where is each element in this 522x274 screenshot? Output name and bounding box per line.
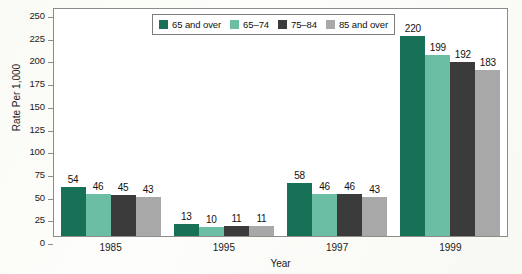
legend-swatch-icon [230,20,239,29]
bar-value-label: 220 [405,23,421,34]
bar-group: 54464543 [61,9,161,236]
bar: 13 [174,224,199,236]
legend-item[interactable]: 65 and over [159,19,221,30]
bar-value-label: 46 [93,181,104,192]
bar: 54 [61,187,86,236]
bar: 46 [86,194,111,236]
y-axis-tick-label: 100 [29,146,45,157]
legend-swatch-icon [278,20,287,29]
bar-value-label: 54 [68,174,79,185]
bar: 46 [312,194,337,236]
legend-swatch-icon [159,20,168,29]
bar-group: 13101111 [174,9,274,236]
legend-item-label: 75–84 [291,19,317,30]
x-axis-title: Year [53,258,508,269]
bar-value-label: 46 [319,181,330,192]
grouped-bar-chart: 0255075100125150175200225250 Rate Per 1,… [0,0,522,274]
y-axis-tick-label: 250 [29,10,45,21]
legend-item-label: 65–74 [243,19,269,30]
bar-value-label: 10 [206,214,217,225]
y-axis-tick-label: 175 [29,78,45,89]
bar: 10 [199,227,224,236]
bar: 220 [400,36,425,236]
bar: 58 [287,183,312,236]
bar: 183 [475,70,500,236]
legend-item-label: 85 and over [339,19,388,30]
bar: 192 [450,62,475,236]
bar: 11 [224,226,249,236]
y-axis-tick-label: 225 [29,33,45,44]
y-axis-tick-label: 200 [29,55,45,66]
bars-container: 544645431310111158464643220199192183 [54,9,507,236]
bar: 199 [425,55,450,236]
bar-value-label: 13 [181,211,192,222]
bar: 43 [362,197,387,236]
bar-value-label: 58 [294,170,305,181]
bar-value-label: 183 [480,57,496,68]
bar-value-label: 43 [143,184,154,195]
x-axis-tick-label: 1985 [100,242,122,253]
bar: 45 [111,195,136,236]
legend-item[interactable]: 75–84 [278,19,317,30]
bar-value-label: 46 [344,181,355,192]
y-axis-title: Rate Per 1,000 [11,28,22,168]
y-axis-tick-label: 50 [35,192,45,203]
bar-value-label: 43 [369,184,380,195]
bar-value-label: 11 [231,213,241,224]
legend: 65 and over65–7475–8485 and over [152,14,395,35]
x-axis-tick-label: 1995 [213,242,235,253]
bar-value-label: 45 [118,182,129,193]
legend-item[interactable]: 85 and over [326,19,388,30]
x-axis-tick-label: 1997 [326,242,348,253]
bar: 46 [337,194,362,236]
bar-group: 58464643 [287,9,387,236]
y-axis-tick-label: 25 [35,214,45,225]
x-axis: Year 1985199519971999 [53,238,508,274]
legend-item[interactable]: 65–74 [230,19,269,30]
legend-swatch-icon [326,20,335,29]
y-axis-tick-label: 75 [35,169,45,180]
bar: 43 [136,197,161,236]
bar-group: 220199192183 [400,9,500,236]
y-axis-tick-label: 150 [29,101,45,112]
y-axis-tick-label: 0 [40,237,45,248]
bar-value-label: 11 [256,213,266,224]
bar: 11 [249,226,274,236]
bar-value-label: 199 [430,42,446,53]
legend-item-label: 65 and over [172,19,221,30]
x-axis-tick-label: 1999 [439,242,461,253]
bar-value-label: 192 [455,49,471,60]
y-axis: 0255075100125150175200225250 [0,8,53,237]
y-axis-tick-label: 125 [29,124,45,135]
